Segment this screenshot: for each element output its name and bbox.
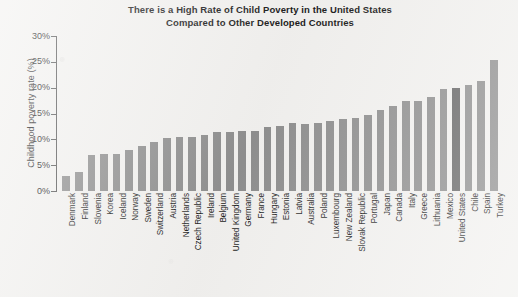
bar-germany: [238, 131, 246, 191]
x-tick-label: Chile: [472, 193, 480, 212]
x-tick-label: Luxembourg: [333, 193, 341, 239]
x-axis-labels: DenmarkFinlandSloveniaKoreaIcelandNorway…: [60, 193, 500, 293]
bar-spain: [477, 81, 485, 191]
bar-latvia: [289, 123, 297, 191]
bar-iceland: [113, 154, 121, 191]
x-tick-label: Hungary: [271, 193, 279, 224]
x-tick-label: Latvia: [296, 193, 304, 215]
bar-belgium: [213, 132, 221, 191]
bars-layer: [60, 36, 500, 191]
bar-greece: [414, 101, 422, 191]
x-tick-label: Canada: [396, 193, 404, 222]
bar-australia: [301, 124, 309, 191]
x-tick-label: Turkey: [497, 193, 505, 218]
x-tick-label: France: [258, 193, 266, 218]
bar-japan: [377, 110, 385, 191]
x-tick-label: Czech Republic: [195, 193, 203, 250]
x-tick-label: Portugal: [371, 193, 379, 224]
bar-luxembourg: [326, 121, 334, 191]
x-tick-label: Finland: [82, 193, 90, 220]
bar-slovak-republic: [352, 118, 360, 191]
bar-united-kingdom: [226, 132, 234, 191]
y-tick-mark: [51, 88, 56, 89]
bar-netherlands: [176, 137, 184, 191]
y-axis-line: [56, 36, 57, 192]
x-tick-label: Korea: [107, 193, 115, 215]
bar-finland: [75, 172, 83, 191]
x-tick-label: Slovak Republic: [359, 193, 367, 252]
x-tick-label: Lithuania: [434, 193, 442, 226]
plot-area: 0%5%10%15%20%25%30%: [60, 36, 500, 191]
x-tick-label: Norway: [132, 193, 140, 221]
bar-lithuania: [427, 97, 435, 191]
bar-turkey: [490, 60, 498, 191]
bar-estonia: [276, 126, 284, 191]
y-tick-label: 0%: [10, 187, 50, 196]
y-tick-mark: [51, 191, 56, 192]
bar-united-states: [452, 88, 460, 191]
bar-chile: [465, 85, 473, 191]
x-tick-label: Germany: [245, 193, 253, 227]
chart-title-line-1: There is a High Rate of Child Poverty in…: [50, 4, 470, 17]
y-tick-label: 20%: [10, 83, 50, 92]
y-tick-mark: [51, 114, 56, 115]
bar-portugal: [364, 115, 372, 191]
chart-container: There is a High Rate of Child Poverty in…: [0, 0, 518, 297]
y-tick-mark: [51, 62, 56, 63]
x-tick-label: United States: [459, 193, 467, 242]
x-tick-label: Mexico: [447, 193, 455, 219]
x-tick-label: Austria: [170, 193, 178, 218]
bar-norway: [125, 150, 133, 191]
x-tick-label: Italy: [409, 193, 417, 208]
bar-ireland: [201, 135, 209, 191]
x-tick-label: New Zealand: [346, 193, 354, 241]
bar-korea: [100, 154, 108, 191]
bar-slovenia: [88, 155, 96, 191]
bar-czech-republic: [188, 137, 196, 191]
y-tick-mark: [51, 165, 56, 166]
bar-france: [251, 131, 259, 191]
y-tick-label: 15%: [10, 109, 50, 118]
x-tick-label: Ireland: [208, 193, 216, 218]
x-tick-label: Spain: [484, 193, 492, 214]
bar-italy: [402, 101, 410, 191]
bar-mexico: [440, 89, 448, 191]
chart-title: There is a High Rate of Child Poverty in…: [50, 4, 470, 29]
x-tick-label: Australia: [308, 193, 316, 225]
bar-canada: [389, 106, 397, 191]
bar-sweden: [138, 146, 146, 191]
x-tick-label: Sweden: [145, 193, 153, 223]
bar-hungary: [264, 127, 272, 191]
x-tick-label: Greece: [421, 193, 429, 220]
y-tick-label: 5%: [10, 161, 50, 170]
bar-austria: [163, 138, 171, 191]
x-tick-label: Poland: [321, 193, 329, 219]
y-tick-label: 25%: [10, 57, 50, 66]
x-tick-label: United Kingdom: [233, 193, 241, 251]
x-tick-label: Iceland: [120, 193, 128, 219]
y-tick-mark: [51, 36, 56, 37]
chart-title-line-2: Compared to Other Developed Countries: [50, 17, 470, 30]
bar-switzerland: [150, 142, 158, 191]
x-tick-label: Switzerland: [157, 193, 165, 235]
y-tick-mark: [51, 139, 56, 140]
bar-denmark: [62, 176, 70, 192]
y-tick-label: 10%: [10, 135, 50, 144]
x-tick-label: Slovenia: [95, 193, 103, 224]
x-tick-label: Estonia: [283, 193, 291, 220]
bar-new-zealand: [339, 119, 347, 191]
bar-poland: [314, 123, 322, 191]
y-tick-label: 30%: [10, 32, 50, 41]
x-tick-label: Netherlands: [183, 193, 191, 237]
x-tick-label: Japan: [384, 193, 392, 215]
x-tick-label: Denmark: [69, 193, 77, 226]
x-tick-label: Belgium: [220, 193, 228, 223]
